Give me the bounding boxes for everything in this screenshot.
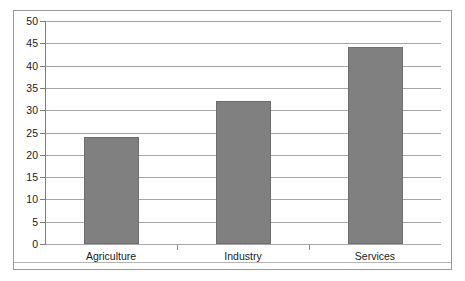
bar-chart: 05101520253035404550 AgricultureIndustry… xyxy=(0,0,465,281)
y-axis-tick xyxy=(40,155,45,156)
y-axis-tick xyxy=(40,43,45,44)
bar xyxy=(348,47,403,244)
y-axis-tick-label: 15 xyxy=(12,172,38,183)
y-axis-tick-label: 45 xyxy=(12,38,38,49)
y-axis-tick xyxy=(40,133,45,134)
y-axis-line xyxy=(45,21,46,245)
y-axis-tick-label: 10 xyxy=(12,194,38,205)
y-axis-tick xyxy=(40,222,45,223)
y-axis-tick xyxy=(40,110,45,111)
x-axis-label-rule xyxy=(14,262,451,263)
y-axis-tick-labels: 05101520253035404550 xyxy=(8,0,38,281)
y-axis-tick xyxy=(40,88,45,89)
y-axis-tick-label: 40 xyxy=(12,61,38,72)
gridline xyxy=(45,244,441,245)
y-axis-tick xyxy=(40,244,45,245)
y-axis-tick-label: 50 xyxy=(12,16,38,27)
y-axis-tick xyxy=(40,66,45,67)
y-axis-tick-label: 30 xyxy=(12,105,38,116)
gridline xyxy=(45,43,441,44)
bar xyxy=(216,101,271,244)
y-axis-tick-label: 25 xyxy=(12,128,38,139)
x-axis-category-tick xyxy=(309,245,310,250)
x-axis-category-label: Industry xyxy=(177,251,309,262)
x-axis-category-label: Agriculture xyxy=(45,251,177,262)
gridline xyxy=(45,21,441,22)
y-axis-tick-label: 0 xyxy=(12,239,38,250)
y-axis-tick xyxy=(40,199,45,200)
bar xyxy=(84,137,139,244)
x-axis-category-label: Services xyxy=(309,251,441,262)
y-axis-tick-label: 35 xyxy=(12,83,38,94)
y-axis-tick xyxy=(40,21,45,22)
y-axis-tick-label: 20 xyxy=(12,150,38,161)
x-axis-category-tick xyxy=(177,245,178,250)
y-axis-tick-label: 5 xyxy=(12,217,38,228)
y-axis-tick xyxy=(40,177,45,178)
